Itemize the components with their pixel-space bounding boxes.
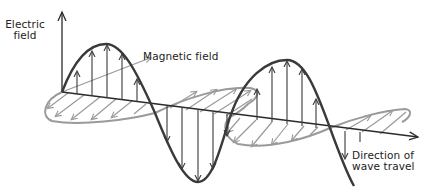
direction-label-line2: wave travel — [352, 161, 415, 172]
magnetic-field-label-text: Magnetic field — [143, 51, 218, 62]
electric-field-wave — [62, 44, 360, 186]
electric-field-label: Electric field — [4, 19, 46, 41]
magnetic-field-label: Magnetic field — [143, 51, 218, 62]
electric-field-label-line2: field — [4, 30, 46, 41]
magnetic-field-wave — [45, 58, 410, 146]
direction-label: Direction of wave travel — [352, 150, 415, 172]
em-wave-diagram: Electric field Magnetic field Direction … — [0, 0, 441, 194]
